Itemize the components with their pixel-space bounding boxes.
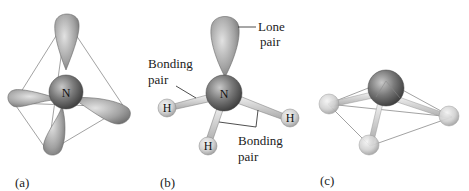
nitrogen-label: N [62, 86, 71, 100]
lone-pair-lobe [211, 17, 239, 78]
hydrogen-label: H [286, 111, 295, 125]
panel-c: (c) [319, 70, 459, 188]
bonding-pair-right-line2: pair [238, 149, 259, 164]
right-lobe [72, 97, 130, 124]
nitrogen-label: N [220, 87, 229, 101]
nitrogen-atom [368, 70, 404, 106]
ammonia-geometry-diagram: N (a) N H H H Lone pair Bonding pair Bon… [0, 0, 469, 190]
hydrogen-atom [359, 135, 379, 155]
panel-b-label: (b) [160, 175, 175, 190]
bottom-lobe [43, 106, 65, 155]
panel-a: N (a) [8, 14, 131, 190]
hydrogen-label: H [163, 101, 172, 115]
lone-pair-label-line1: Lone [258, 19, 285, 34]
bonding-pair-left-line1: Bonding [148, 56, 193, 71]
panel-a-label: (a) [15, 175, 29, 190]
hydrogen-atom [319, 94, 339, 114]
hydrogen-label: H [204, 139, 213, 153]
bonding-pair-left-line2: pair [148, 72, 169, 87]
bonding-pair-right-line1: Bonding [238, 133, 283, 148]
panel-b: N H H H Lone pair Bonding pair Bonding p… [148, 17, 299, 191]
bond-right [234, 95, 287, 120]
hydrogen-atom [439, 106, 459, 126]
top-lobe [55, 14, 79, 70]
lone-pair-label-line2: pair [260, 34, 281, 49]
panel-c-label: (c) [320, 173, 334, 188]
